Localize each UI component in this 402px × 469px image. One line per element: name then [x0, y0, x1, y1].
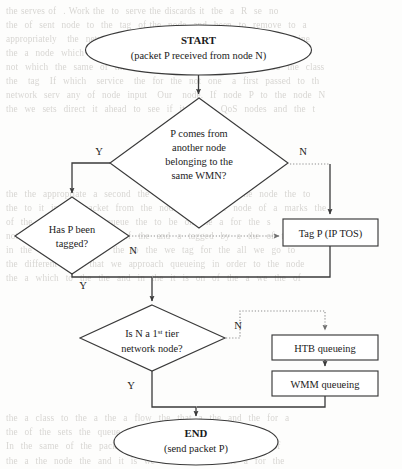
- edge-decision3-yes-to-end: [152, 371, 196, 416]
- decision-first-tier-line1-suffix: tier: [162, 328, 179, 339]
- branch-label-n-first-tier: N: [234, 320, 242, 331]
- wmm-queueing-label: WMM queueing: [291, 379, 360, 390]
- end-oval: [114, 419, 278, 465]
- branch-label-y-tagged: Y: [79, 280, 87, 291]
- decision-tagged-diamond: [15, 197, 129, 274]
- decision-tagged-line1: Has P been: [49, 224, 96, 235]
- node-process-tag: Tag P (IP TOS): [283, 219, 378, 246]
- branch-label-y-same-wmn: Y: [95, 146, 103, 157]
- start-title: START: [181, 34, 217, 46]
- decision-first-tier-line1-prefix: Is N a 1: [125, 328, 158, 339]
- decision-same-wmn-line4: same WMN?: [172, 170, 227, 181]
- htb-queueing-label: HTB queueing: [294, 343, 355, 354]
- decision-tagged-line2: tagged?: [56, 238, 89, 249]
- node-decision-tagged: Has P been tagged?: [15, 197, 129, 274]
- edge-decision1-yes-to-decision2: [72, 163, 110, 193]
- edge-tag-to-merge: [153, 246, 330, 277]
- flowchart-page: the serves of . Work the to serve the di…: [0, 0, 402, 469]
- node-decision-same-wmn: P comes from another node belonging to t…: [110, 98, 288, 228]
- node-process-wmm: WMM queueing: [272, 371, 378, 396]
- edge-wmm-to-end: [197, 396, 325, 407]
- start-subtitle: (packet P received from node N): [131, 50, 267, 62]
- decision-first-tier-line2: network node?: [121, 343, 183, 354]
- node-end: END (send packet P): [114, 419, 278, 465]
- branch-label-n-tagged: N: [129, 245, 137, 256]
- tag-p-label: Tag P (IP TOS): [299, 228, 363, 240]
- branch-label-y-first-tier: Y: [127, 380, 135, 391]
- decision-first-tier-line1: Is N a 1st tier: [125, 328, 179, 339]
- end-title: END: [185, 427, 208, 439]
- end-subtitle: (send packet P): [164, 443, 228, 455]
- flowchart-canvas: START (packet P received from node N) P …: [0, 0, 402, 469]
- branch-label-n-same-wmn: N: [299, 146, 307, 157]
- decision-same-wmn-line1: P comes from: [170, 128, 227, 139]
- node-start: START (packet P received from node N): [86, 25, 312, 75]
- node-process-htb: HTB queueing: [272, 335, 378, 360]
- decision-same-wmn-line2: another node: [172, 142, 226, 153]
- decision-same-wmn-line3: belonging to the: [165, 156, 233, 167]
- node-decision-first-tier: Is N a 1st tier network node?: [80, 305, 225, 371]
